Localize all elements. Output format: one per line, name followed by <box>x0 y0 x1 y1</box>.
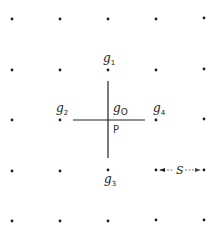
label-g2: g2 <box>56 101 68 117</box>
lattice-point <box>59 69 62 72</box>
lattice-point <box>11 220 14 223</box>
lattice-point-g1 <box>107 69 110 72</box>
lattice-diagram: g1 g2 gO g4 P g3 S <box>0 0 217 233</box>
lattice-point <box>203 118 206 121</box>
lattice-point <box>203 169 206 172</box>
lattice-point <box>11 170 14 173</box>
label-g3: g3 <box>104 172 116 188</box>
lattice-point <box>107 220 110 223</box>
spacing-indicator: S <box>159 164 201 177</box>
lattice-point <box>11 69 14 72</box>
label-g1: g1 <box>103 51 115 67</box>
lattice-point <box>155 169 158 172</box>
lattice-point-g4 <box>155 119 158 122</box>
arrow-left-icon <box>159 168 165 172</box>
label-s: S <box>176 164 184 177</box>
lattice-point <box>107 18 110 21</box>
lattice-point <box>155 69 158 72</box>
label-p: P <box>113 124 119 135</box>
label-g0: gO <box>113 101 128 117</box>
lattice-point <box>11 18 14 21</box>
lattice-point <box>155 219 158 222</box>
label-g4: g4 <box>153 101 166 117</box>
lattice-point <box>155 18 158 21</box>
lattice-point <box>11 119 14 122</box>
lattice-point <box>203 219 206 222</box>
lattice-point <box>59 220 62 223</box>
lattice-point <box>59 170 62 173</box>
lattice-point-g3 <box>107 169 110 172</box>
lattice-point <box>59 18 62 21</box>
lattice-point <box>203 68 206 71</box>
lattice-point-g2 <box>59 119 62 122</box>
cross-lines <box>73 81 145 158</box>
lattice-point <box>203 17 206 20</box>
arrow-right-icon <box>195 168 201 172</box>
